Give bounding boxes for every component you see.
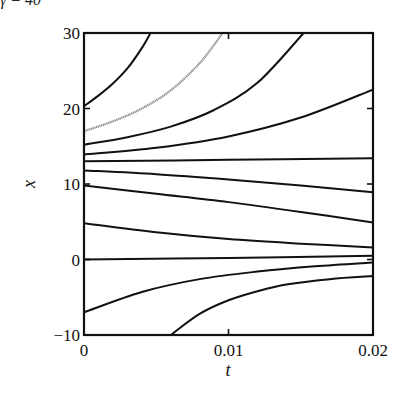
trajectory-curve <box>84 33 304 145</box>
trajectory-curve <box>84 170 373 192</box>
y-tick-label: 30 <box>63 24 80 43</box>
trajectory-plot: 00.010.02 −100102030 t x <box>0 0 413 404</box>
trajectory-curve <box>84 33 150 106</box>
x-axis-label: t <box>225 360 231 380</box>
y-tick-label: 10 <box>63 175 80 194</box>
x-tick-label: 0.01 <box>214 341 244 360</box>
y-tick-label: 20 <box>63 100 80 119</box>
trajectory-curve <box>84 186 373 223</box>
axis-ticks <box>84 33 373 335</box>
trajectory-curve <box>171 276 373 335</box>
x-tick-label: 0.02 <box>358 341 388 360</box>
y-tick-label: 0 <box>72 251 81 270</box>
x-tick-labels: 00.010.02 <box>80 341 388 360</box>
trajectory-curve <box>84 256 373 260</box>
y-tick-label: −10 <box>53 326 80 345</box>
axes-frame <box>84 33 373 335</box>
x-tick-label: 0 <box>80 341 89 360</box>
trajectory-curve <box>84 90 373 155</box>
trajectory-curves <box>84 33 373 335</box>
trajectory-curve <box>84 158 373 161</box>
trajectory-curve <box>84 223 373 247</box>
y-axis-label: x <box>19 180 39 189</box>
trajectory-curve <box>84 263 373 313</box>
y-tick-labels: −100102030 <box>53 24 80 345</box>
